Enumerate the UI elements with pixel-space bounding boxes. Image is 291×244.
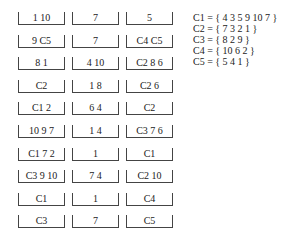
- grid-cell: 7: [72, 35, 119, 48]
- grid-cell: C2: [18, 80, 65, 93]
- grid-cell: 10 9 7: [18, 125, 65, 138]
- grid-cell: 1 4: [72, 125, 119, 138]
- grid-cell: 1: [72, 148, 119, 161]
- grid-cell: C1: [18, 193, 65, 206]
- grid-cell: 1 10: [18, 12, 65, 25]
- grid-cell: 9 C5: [18, 35, 65, 48]
- grid-cell: C2 8 6: [126, 57, 173, 70]
- grid-cell: C4: [126, 193, 173, 206]
- grid-cell: C1 7 2: [18, 148, 65, 161]
- grid-cell: C2 6: [126, 80, 173, 93]
- grid-cell: 4 10: [72, 57, 119, 70]
- grid-cell: C2: [126, 102, 173, 115]
- grid-cell: 8 1: [18, 57, 65, 70]
- grid-cell: C2 10: [126, 170, 173, 183]
- grid-cell: C4 C5: [126, 35, 173, 48]
- grid-cell: C1: [126, 148, 173, 161]
- grid-cell: 1 8: [72, 80, 119, 93]
- grid-cell: 7 4: [72, 170, 119, 183]
- legend-entry-c3: C3 = { 8 2 9 }: [193, 34, 277, 45]
- grid-cell: 6 4: [72, 102, 119, 115]
- grid-cell: 7: [72, 12, 119, 25]
- grid-cell: 7: [72, 215, 119, 228]
- grid-cell: C3 9 10: [18, 170, 65, 183]
- grid-cell: 1: [72, 193, 119, 206]
- legend-entry-c4: C4 = { 10 6 2 }: [193, 45, 277, 56]
- grid-cell: C3 7 6: [126, 125, 173, 138]
- legend-entry-c1: C1 = { 4 3 5 9 10 7 }: [193, 12, 277, 23]
- legend-entry-c5: C5 = { 5 4 1 }: [193, 56, 277, 67]
- grid-cell: C1 2: [18, 102, 65, 115]
- grid-cell: 5: [126, 12, 173, 25]
- cluster-legend: C1 = { 4 3 5 9 10 7 } C2 = { 7 3 2 1 } C…: [193, 12, 277, 67]
- grid-cell: C5: [126, 215, 173, 228]
- grid-cell: C3: [18, 215, 65, 228]
- legend-entry-c2: C2 = { 7 3 2 1 }: [193, 23, 277, 34]
